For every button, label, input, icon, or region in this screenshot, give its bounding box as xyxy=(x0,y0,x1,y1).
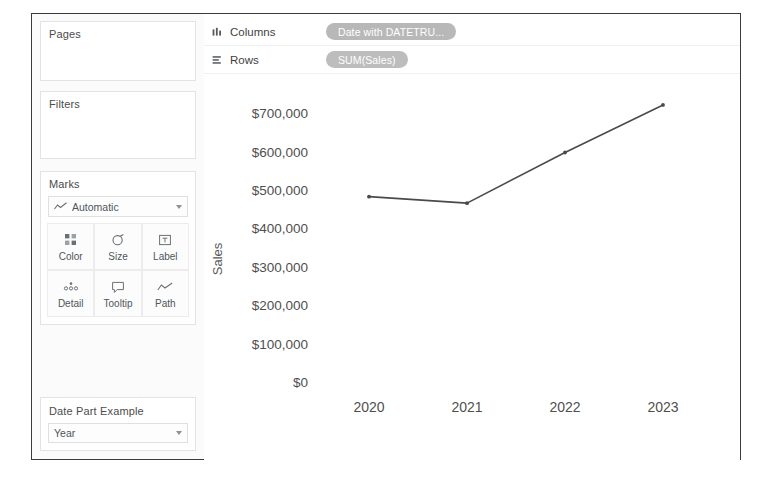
columns-icon xyxy=(210,27,224,37)
marks-color-label: Color xyxy=(59,251,83,262)
mark-type-label: Automatic xyxy=(72,201,176,213)
y-tick-label: $500,000 xyxy=(252,183,308,198)
x-tick-label: 2022 xyxy=(549,399,580,415)
date-part-legend-card: Date Part Example Year xyxy=(40,397,196,451)
data-point-marker[interactable] xyxy=(563,151,567,155)
chart-canvas: $700,000$600,000$500,000$400,000$300,000… xyxy=(204,74,740,464)
marks-size-button[interactable]: Size xyxy=(94,223,141,270)
date-part-selected-value: Year xyxy=(54,427,176,439)
data-point-marker[interactable] xyxy=(661,103,665,107)
marks-tooltip-label: Tooltip xyxy=(104,298,133,309)
rows-icon xyxy=(210,55,224,65)
columns-shelf-label: Columns xyxy=(230,26,326,38)
x-tick-label: 2020 xyxy=(353,399,384,415)
marks-detail-button[interactable]: Detail xyxy=(47,270,94,317)
y-tick-label: $400,000 xyxy=(252,221,308,236)
filters-title: Filters xyxy=(41,92,195,115)
data-point-markers xyxy=(367,103,665,205)
data-point-marker[interactable] xyxy=(367,195,371,199)
sales-trend-line xyxy=(369,105,663,203)
tableau-worksheet-window: Pages Filters Marks Automatic xyxy=(31,13,741,460)
y-axis-tick-labels: $700,000$600,000$500,000$400,000$300,000… xyxy=(252,106,308,390)
marks-property-grid: Color Size xyxy=(41,223,195,324)
path-line-icon xyxy=(157,278,173,296)
marks-label-button[interactable]: Label xyxy=(142,223,189,270)
x-tick-label: 2023 xyxy=(647,399,678,415)
marks-tooltip-button[interactable]: Tooltip xyxy=(94,270,141,317)
view-panel: Columns Date with DATETRU... Rows SUM(Sa… xyxy=(204,14,740,459)
rows-shelf[interactable]: Rows SUM(Sales) xyxy=(204,46,740,74)
marks-color-button[interactable]: Color xyxy=(47,223,94,270)
detail-dots-icon xyxy=(63,278,79,296)
left-shelf-panel: Pages Filters Marks Automatic xyxy=(32,14,204,459)
mark-type-dropdown[interactable]: Automatic xyxy=(48,196,188,217)
pages-card[interactable]: Pages xyxy=(40,21,196,81)
tooltip-bubble-icon xyxy=(111,278,125,296)
y-tick-label: $700,000 xyxy=(252,106,308,121)
y-tick-label: $100,000 xyxy=(252,337,308,352)
line-chart-view[interactable]: $700,000$600,000$500,000$400,000$300,000… xyxy=(204,74,740,464)
marks-path-label: Path xyxy=(155,298,176,309)
y-tick-label: $200,000 xyxy=(252,298,308,313)
marks-label-label: Label xyxy=(153,251,177,262)
pill-columns-date[interactable]: Date with DATETRU... xyxy=(326,23,456,40)
pages-title: Pages xyxy=(41,22,195,45)
x-tick-label: 2021 xyxy=(451,399,482,415)
chevron-down-icon[interactable] xyxy=(176,431,182,435)
filters-card[interactable]: Filters xyxy=(40,91,196,159)
color-squares-icon xyxy=(64,231,78,249)
label-text-icon xyxy=(158,231,172,249)
chevron-down-icon[interactable] xyxy=(176,205,182,209)
marks-card: Marks Automatic xyxy=(40,171,196,325)
date-part-dropdown[interactable]: Year xyxy=(48,423,188,443)
marks-detail-label: Detail xyxy=(58,298,84,309)
workspace: Pages Filters Marks Automatic xyxy=(32,14,740,459)
y-tick-label: $600,000 xyxy=(252,145,308,160)
columns-shelf[interactable]: Columns Date with DATETRU... xyxy=(204,18,740,46)
marks-size-label: Size xyxy=(108,251,127,262)
rows-shelf-label: Rows xyxy=(230,54,326,66)
date-part-title: Date Part Example xyxy=(41,398,195,423)
marks-path-button[interactable]: Path xyxy=(142,270,189,317)
data-point-marker[interactable] xyxy=(465,201,469,205)
pill-rows-sum-sales[interactable]: SUM(Sales) xyxy=(326,51,408,68)
y-tick-label: $300,000 xyxy=(252,260,308,275)
size-circle-icon xyxy=(111,231,125,249)
y-axis-title: Sales xyxy=(210,242,225,275)
x-axis-tick-labels: 2020202120222023 xyxy=(353,399,678,415)
line-chart-icon xyxy=(54,202,67,211)
marks-title: Marks xyxy=(41,172,195,195)
y-tick-label: $0 xyxy=(293,375,308,390)
shelves-container: Columns Date with DATETRU... Rows SUM(Sa… xyxy=(204,14,740,74)
